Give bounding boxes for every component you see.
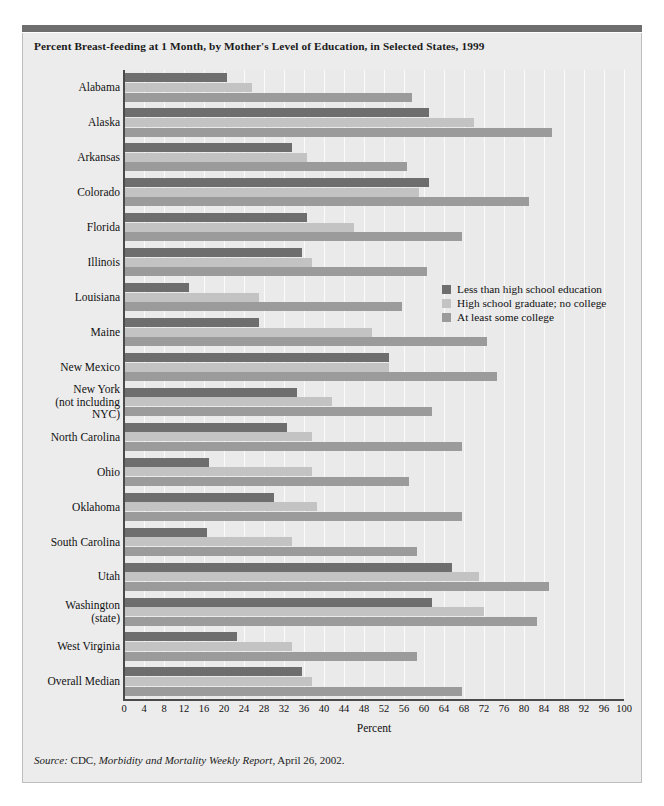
x-tick-label: 0	[121, 703, 126, 714]
bar	[124, 407, 432, 416]
x-tick-label: 20	[219, 703, 230, 714]
bar-group	[124, 108, 624, 136]
x-tick-label: 4	[141, 703, 146, 714]
legend-item: Less than high school education	[442, 282, 606, 296]
category-label-line: Florida	[8, 221, 120, 234]
legend-swatch-icon	[442, 313, 451, 322]
legend-label: High school graduate; no college	[457, 297, 606, 309]
bar	[124, 318, 259, 327]
source-publication: Morbidity and Mortality Weekly Report	[99, 754, 273, 766]
category-label: Ohio	[8, 466, 120, 479]
x-tick-labels: 0481216202428323640444852566064687276808…	[124, 703, 624, 719]
category-label-line: Maine	[8, 326, 120, 339]
bar	[124, 677, 312, 686]
legend-item: High school graduate; no college	[442, 296, 606, 310]
category-label-line: Utah	[8, 570, 120, 583]
bar-group	[124, 563, 624, 591]
bar	[124, 302, 402, 311]
x-tick-label: 68	[459, 703, 470, 714]
figure-page: Percent Breast-feeding at 1 Month, by Mo…	[0, 0, 664, 806]
bar	[124, 197, 529, 206]
legend-item: At least some college	[442, 310, 606, 324]
bar	[124, 363, 389, 372]
source-agency: CDC,	[68, 754, 99, 766]
x-tick-label: 60	[419, 703, 430, 714]
chart-title: Percent Breast-feeding at 1 Month, by Mo…	[34, 40, 634, 52]
bar	[124, 563, 452, 572]
category-label-line: Alaska	[8, 116, 120, 129]
bar	[124, 128, 552, 137]
category-label: South Carolina	[8, 536, 120, 549]
x-tick-label: 40	[319, 703, 330, 714]
x-tick-label: 96	[599, 703, 610, 714]
legend-swatch-icon	[442, 285, 451, 294]
category-label-line: Oklahoma	[8, 501, 120, 514]
category-label: Alaska	[8, 116, 120, 129]
x-tick-label: 80	[519, 703, 530, 714]
bar	[124, 248, 302, 257]
chart-legend: Less than high school educationHigh scho…	[442, 282, 606, 324]
bar-group	[124, 353, 624, 381]
bar	[124, 213, 307, 222]
category-label: Colorado	[8, 186, 120, 199]
decorative-top-rule	[22, 25, 642, 32]
bar	[124, 178, 429, 187]
bar	[124, 118, 474, 127]
bar	[124, 547, 417, 556]
bar	[124, 442, 462, 451]
category-label-line: New Mexico	[8, 361, 120, 374]
bar-group	[124, 493, 624, 521]
bar	[124, 283, 189, 292]
bar	[124, 388, 297, 397]
bar-group	[124, 632, 624, 660]
x-tick-label: 52	[379, 703, 390, 714]
bar	[124, 477, 409, 486]
legend-label: At least some college	[457, 311, 554, 323]
legend-swatch-icon	[442, 299, 451, 308]
x-tick-label: 28	[259, 703, 270, 714]
category-label-line: Louisiana	[8, 291, 120, 304]
x-tick-label: 84	[539, 703, 550, 714]
category-axis-labels: AlabamaAlaskaArkansasColoradoFloridaIlli…	[8, 70, 120, 699]
bar	[124, 108, 429, 117]
category-label: New Mexico	[8, 361, 120, 374]
bar	[124, 512, 462, 521]
bar	[124, 267, 427, 276]
bar	[124, 642, 292, 651]
category-label-line: Ohio	[8, 466, 120, 479]
bar	[124, 232, 462, 241]
bar-group	[124, 388, 624, 416]
bar	[124, 372, 497, 381]
bar	[124, 353, 389, 362]
source-note: Source: CDC, Morbidity and Mortality Wee…	[34, 754, 345, 766]
x-tick-label: 36	[299, 703, 310, 714]
category-label: North Carolina	[8, 431, 120, 444]
bar	[124, 143, 292, 152]
bar	[124, 397, 332, 406]
bar-group	[124, 248, 624, 276]
category-label: Alabama	[8, 81, 120, 94]
bar	[124, 188, 419, 197]
bar	[124, 528, 207, 537]
x-tick-label: 76	[499, 703, 510, 714]
category-label-line: Alabama	[8, 81, 120, 94]
bar-group	[124, 458, 624, 486]
category-label-line: West Virginia	[8, 640, 120, 653]
category-label: Washington(state)	[8, 599, 120, 624]
category-label-line: South Carolina	[8, 536, 120, 549]
x-axis-title: Percent	[124, 722, 624, 734]
bar	[124, 687, 462, 696]
bar-group	[124, 528, 624, 556]
category-label: Utah	[8, 570, 120, 583]
bar	[124, 493, 274, 502]
x-axis-line	[123, 699, 624, 701]
bar	[124, 537, 292, 546]
bar	[124, 632, 237, 641]
category-label-line: New York	[8, 383, 120, 396]
bar-group	[124, 73, 624, 101]
bar	[124, 607, 484, 616]
bar	[124, 83, 252, 92]
bar	[124, 502, 317, 511]
bar	[124, 467, 312, 476]
category-label: Louisiana	[8, 291, 120, 304]
